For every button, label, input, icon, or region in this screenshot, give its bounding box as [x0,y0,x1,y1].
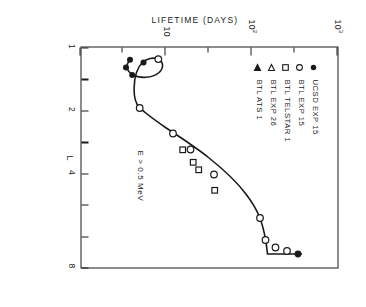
legend-label: BTL EXP 26 [268,79,277,126]
legend-label: UCSD EXP 15 [310,79,319,134]
xtick-label-4: 4 [66,170,76,175]
open-square-icon [280,62,290,72]
data-point-telstar [211,187,217,193]
ytick-label-1000: 103 [332,19,343,33]
open-circle-icon [294,62,304,72]
data-point-btl-exp15 [256,214,263,221]
y-axis-title: LIFETIME (DAYS) [151,14,238,24]
half-filled-triangle-icon [252,62,262,72]
ytick-label-1000-exponent: 3 [337,29,343,33]
xtick-label-2: 2 [66,107,76,112]
data-point-btl-exp15 [155,55,162,62]
x-axis-title: L [64,155,74,160]
data-point-telstar [190,159,196,165]
data-point-btl-exp15 [210,171,217,178]
data-point-ucsd [127,56,133,62]
data-point-telstar [195,167,201,173]
ytick-label-100-mantissa: 10 [246,19,256,29]
ytick-label-10-mantissa: 10 [161,26,171,36]
legend-label: BTL TELSTAR 1 [282,79,291,142]
legend-label: BTL EXP 15 [296,79,305,126]
xtick-label-1: 1 [66,44,76,49]
rotated-figure: 1 2 4 8 103 102 10 LIFETIME (DAYS) L E >… [0,0,366,307]
data-point-btl-exp15 [283,247,290,254]
ytick-label-10: 10 [161,26,171,36]
data-point-btl-exp15 [272,244,279,251]
ytick-label-1000-mantissa: 10 [332,19,342,29]
xtick-label-8: 8 [66,263,76,268]
legend-label: BTL ATS 1 [254,79,263,120]
energy-annotation: E > 0.5 MeV [135,150,144,201]
ytick-label-100: 102 [246,19,257,33]
data-point-telstar [179,147,185,153]
data-point-ats1 [294,250,301,257]
data-point-btl-exp15 [262,236,269,243]
ytick-label-100-exponent: 2 [251,29,257,33]
filled-circle-icon [308,62,318,72]
figure-canvas: 1 2 4 8 103 102 10 LIFETIME (DAYS) L E >… [0,0,366,307]
open-triangle-icon [266,62,276,72]
data-point-btl-exp15 [187,146,194,153]
